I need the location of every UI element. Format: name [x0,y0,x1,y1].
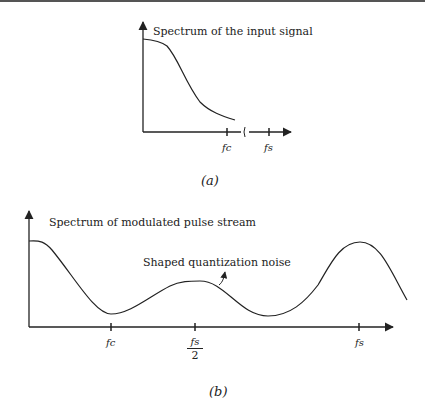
tick-label-fs-a: fs [264,142,273,153]
figure-a-title: Spectrum of the input signal [153,25,313,38]
figure-b-plot [29,211,407,331]
tick-label-fs-b: fs [355,337,364,348]
caption-b: (b) [209,384,227,399]
figure-b-title: Spectrum of modulated pulse stream [49,216,256,229]
tick-label-fc-a: fc [222,142,231,153]
fs-half-denominator: 2 [187,349,203,362]
modulated-spectrum-curve [29,241,407,316]
fs-half-numerator: fs [187,336,203,349]
tick-label-fc-b: fc [106,337,115,348]
input-spectrum-curve [143,39,235,120]
caption-a: (a) [201,173,219,188]
figure-a-plot [143,22,291,137]
noise-annotation-arrow [219,272,225,285]
axis-break-a [244,127,245,137]
noise-annotation: Shaped quantization noise [143,256,291,269]
diagram-canvas [0,0,425,412]
tick-label-fs-half-b: fs 2 [187,336,203,362]
